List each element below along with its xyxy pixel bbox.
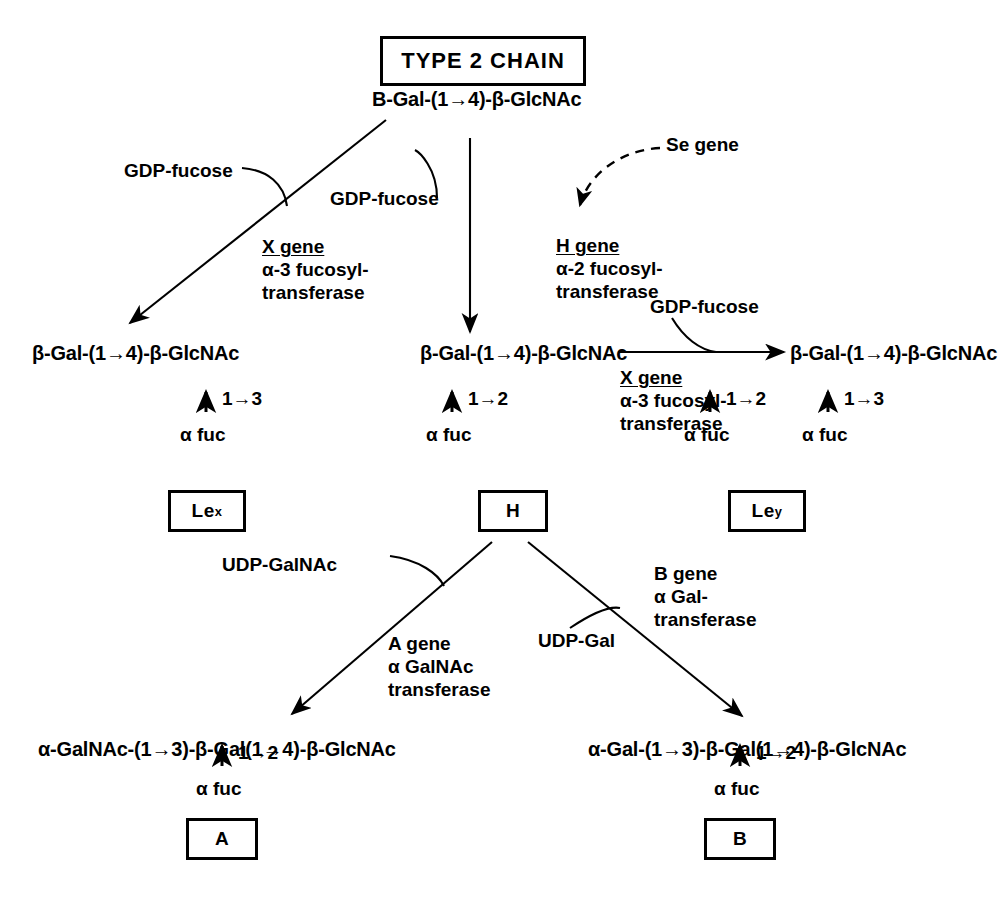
enzyme-line1-x-right: α-3 fucosyl- xyxy=(620,390,727,411)
arrow-h-gene-center xyxy=(415,138,470,332)
enzyme-line1-b: α Gal- xyxy=(654,586,708,607)
b-antigen-formula: α-Gal-(1→3)-β-Gal(1→4)-β-GlcNAc xyxy=(588,738,906,761)
node-a-antigen-box: A xyxy=(186,818,258,860)
h-product-formula: β-Gal-(1→4)-β-GlcNAc xyxy=(420,342,627,365)
node-lewis-y-box: Ley xyxy=(728,490,806,532)
enzyme-line2-a: transferase xyxy=(388,679,490,700)
gene-label-x-right: X gene xyxy=(620,367,682,388)
gene-label-x-left: X gene xyxy=(262,236,324,257)
enzyme-line2-b: transferase xyxy=(654,609,756,630)
pathway-diagram: TYPE 2 CHAIN B-Gal-(1→4)-β-GlcNAc GDP-fu… xyxy=(0,0,1003,899)
type2-chain-formula: B-Gal-(1→4)-β-GlcNAc xyxy=(372,88,581,111)
a-antigen-formula: α-GalNAc-(1→3)-β-Gal(1→4)-β-GlcNAc xyxy=(38,738,396,761)
node-b-antigen-box: B xyxy=(704,818,776,860)
arrow-se-gene-regulator xyxy=(580,148,660,205)
node-lewis-x-box: Lex xyxy=(168,490,246,532)
enzyme-h-gene-center: H gene α-2 fucosyl- transferase xyxy=(556,234,663,304)
a-antigen-sugar: α fuc xyxy=(196,778,241,800)
regulator-se-gene: Se gene xyxy=(666,134,739,156)
donor-gdp-fucose-left: GDP-fucose xyxy=(124,160,233,182)
lewis-y-sugar-2: α fuc xyxy=(802,424,847,446)
lewis-x-sugar: α fuc xyxy=(180,424,225,446)
enzyme-a-gene: A gene α GalNAc transferase xyxy=(388,632,490,702)
a-antigen-linkage: 1→2 xyxy=(238,742,278,764)
lewis-x-box-superscript: x xyxy=(215,504,223,519)
h-product-linkage: 1→2 xyxy=(468,388,508,410)
enzyme-x-gene-left: X gene α-3 fucosyl- transferase xyxy=(262,235,369,305)
node-h-box: H xyxy=(478,490,548,532)
b-antigen-linkage: 1→2 xyxy=(756,742,796,764)
lewis-y-formula: β-Gal-(1→4)-β-GlcNAc xyxy=(790,342,997,365)
lewis-y-box-label: Le xyxy=(752,500,775,522)
arrow-x-gene-right xyxy=(618,318,784,352)
arrow-layer xyxy=(0,0,1003,899)
lewis-y-linkage-2: 1→3 xyxy=(844,388,884,410)
gene-label-h: H gene xyxy=(556,235,619,256)
donor-udp-galnac: UDP-GalNAc xyxy=(222,554,337,576)
type2-chain-label: TYPE 2 CHAIN xyxy=(401,48,565,74)
lewis-y-sugar-1: α fuc xyxy=(684,424,729,446)
lewis-y-box-superscript: y xyxy=(775,504,783,519)
gene-label-b: B gene xyxy=(654,563,717,584)
lewis-x-box-label: Le xyxy=(192,500,215,522)
b-antigen-sugar: α fuc xyxy=(714,778,759,800)
donor-gdp-fucose-center: GDP-fucose xyxy=(330,188,439,210)
donor-udp-gal: UDP-Gal xyxy=(538,630,615,652)
enzyme-line1-x-left: α-3 fucosyl- xyxy=(262,259,369,280)
lewis-x-linkage: 1→3 xyxy=(222,388,262,410)
enzyme-line2-x-left: transferase xyxy=(262,282,364,303)
enzyme-line1-h: α-2 fucosyl- xyxy=(556,258,663,279)
a-antigen-box-label: A xyxy=(215,828,229,850)
lewis-y-linkage-1: 1→2 xyxy=(726,388,766,410)
enzyme-line2-h: transferase xyxy=(556,281,658,302)
h-box-label: H xyxy=(506,500,520,522)
node-type2-chain-box: TYPE 2 CHAIN xyxy=(380,36,586,86)
gene-label-a: A gene xyxy=(388,633,451,654)
enzyme-b-gene: B gene α Gal- transferase xyxy=(654,562,756,632)
b-antigen-box-label: B xyxy=(733,828,747,850)
enzyme-line1-a: α GalNAc xyxy=(388,656,474,677)
donor-gdp-fucose-right: GDP-fucose xyxy=(650,296,759,318)
lewis-x-formula: β-Gal-(1→4)-β-GlcNAc xyxy=(32,342,239,365)
h-product-sugar: α fuc xyxy=(426,424,471,446)
